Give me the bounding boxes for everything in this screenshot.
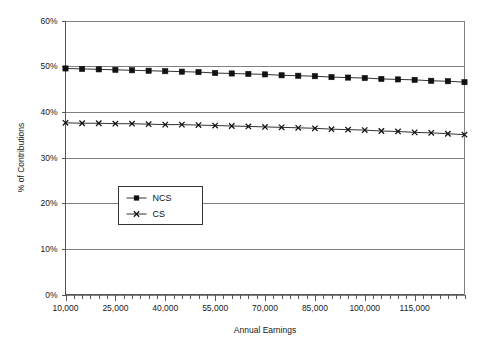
data-point-marker [329, 75, 334, 80]
legend-marker-square-icon [134, 195, 139, 200]
y-tick-label-10: 10% [40, 244, 57, 254]
data-point-marker [296, 73, 301, 78]
y-tick-label-60: 60% [40, 16, 57, 26]
data-point-marker [80, 66, 85, 71]
x-tick-label-10000: 10,000 [53, 303, 79, 313]
x-tick-label-100000: 100,000 [349, 303, 380, 313]
data-point-marker [262, 72, 267, 77]
data-point-marker [179, 69, 184, 74]
line-chart: 0%10%20%30%40%50%60% 10,00025,00040,0005… [0, 0, 482, 354]
data-point-marker [196, 70, 201, 75]
data-point-marker [346, 75, 351, 80]
chart-canvas: 0%10%20%30%40%50%60% 10,00025,00040,0005… [0, 0, 482, 354]
data-point-marker [229, 71, 234, 76]
data-point-marker [96, 67, 101, 72]
y-tick-label-0: 0% [45, 290, 58, 300]
x-tick-label-25000: 25,000 [102, 303, 128, 313]
x-axis-title: Annual Earnings [234, 325, 296, 335]
y-axis-title: % of Contributions [16, 123, 26, 192]
plot-background [0, 0, 482, 354]
x-tick-label-115000: 115,000 [400, 303, 430, 313]
data-point-marker [395, 77, 400, 82]
chart-legend[interactable]: NCSCS [119, 187, 203, 225]
data-point-marker [213, 70, 218, 75]
data-point-marker [379, 76, 384, 81]
data-point-marker [462, 80, 467, 85]
data-point-marker [312, 74, 317, 79]
data-point-marker [362, 75, 367, 80]
data-point-marker [412, 77, 417, 82]
x-tick-label-85000: 85,000 [302, 303, 328, 313]
y-tick-label-30: 30% [40, 153, 57, 163]
data-point-marker [279, 73, 284, 78]
y-tick-label-50: 50% [40, 61, 57, 71]
data-point-marker [129, 68, 134, 73]
data-point-marker [146, 68, 151, 73]
x-tick-label-40000: 40,000 [152, 303, 178, 313]
y-tick-label-40: 40% [40, 107, 57, 117]
x-tick-label-70000: 70,000 [252, 303, 278, 313]
data-point-marker [113, 67, 118, 72]
data-point-marker [429, 78, 434, 83]
data-point-marker [63, 66, 68, 71]
data-point-marker [246, 71, 251, 76]
legend-label-cs[interactable]: CS [153, 209, 166, 219]
x-tick-label-55000: 55,000 [202, 303, 228, 313]
legend-label-ncs[interactable]: NCS [153, 193, 172, 203]
data-point-marker [445, 79, 450, 84]
y-tick-label-20: 20% [40, 198, 57, 208]
data-point-marker [163, 69, 168, 74]
